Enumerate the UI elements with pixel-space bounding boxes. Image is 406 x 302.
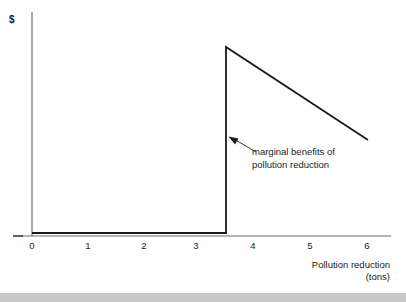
annotation-arrowhead-icon [229, 137, 239, 145]
curve-annotation-line-1: marginal benefits of [252, 146, 335, 157]
x-tick-label-5: 5 [300, 240, 320, 251]
bottom-divider-band [0, 293, 406, 302]
x-axis-title-line-1: Pollution reduction [312, 259, 390, 270]
x-tick-label-4: 4 [243, 240, 263, 251]
marginal-benefits-curve [32, 47, 368, 233]
curve-annotation-label: marginal benefits of pollution reduction [252, 146, 335, 171]
x-tick-label-3: 3 [186, 240, 206, 251]
y-axis-title: $ [9, 14, 15, 26]
x-axis-title-line-2: (tons) [206, 271, 390, 283]
x-tick-label-6: 6 [357, 240, 377, 251]
x-tick-label-2: 2 [134, 240, 154, 251]
curve-annotation-line-2: pollution reduction [252, 159, 335, 172]
x-tick-label-1: 1 [78, 240, 98, 251]
x-axis-title: Pollution reduction (tons) [206, 259, 390, 283]
chart-plot-area [0, 0, 406, 302]
chart-figure: $ Pollution reduction (tons) 0 1 2 3 4 5… [0, 0, 406, 302]
x-tick-label-0: 0 [22, 240, 42, 251]
